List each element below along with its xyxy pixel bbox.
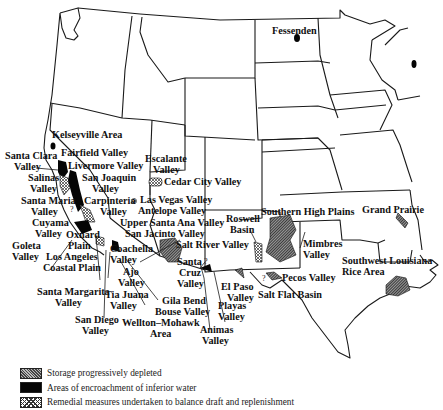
- label-tia-juana-1: Tia Juana: [105, 289, 149, 300]
- label-ajo-1: Ajo: [123, 266, 139, 277]
- label-santa-maria-2: Valley: [31, 206, 58, 217]
- area-carpinteria: [80, 205, 95, 222]
- label-santa-cruz-1: Santa: [177, 256, 202, 267]
- area-michigan: [412, 60, 417, 68]
- label-oxnard-1: Oxnard: [66, 229, 100, 240]
- label-animas-2: Valley: [202, 335, 229, 346]
- label-san-joaquin-1: San Joaquin: [82, 172, 136, 183]
- label-upper-santa-ana: Upper Santa Ana Valley: [120, 217, 224, 228]
- label-goleta-1: Goleta: [12, 240, 41, 251]
- label-santa-maria-1: Santa Maria: [21, 195, 76, 206]
- label-cuyama-1: Cuyama: [32, 217, 69, 228]
- legend-label: Remedial measures undertaken to balance …: [47, 397, 294, 407]
- label-roswell-1: Roswell: [226, 213, 260, 224]
- northern-border: [78, 8, 395, 40]
- area-roswell: [254, 242, 262, 262]
- label-wellton-2: Area: [150, 328, 171, 339]
- area-pecos: [266, 272, 282, 280]
- label-bouse: Bouse Valley: [155, 306, 210, 317]
- label-wellton-1: Wellton–Mohawk: [122, 317, 200, 328]
- label-santa-cruz-3: Valley: [177, 278, 204, 289]
- label-escalante-1: Escalante: [145, 153, 187, 164]
- label-san-diego-2: Valley: [82, 325, 109, 336]
- legend-item-encroachment: Areas of encroachment of inferior water: [20, 381, 294, 396]
- groundwater-map: Fessenden Kelseyville Area Fairfield Val…: [0, 0, 443, 410]
- label-playas-2: Valley: [218, 311, 245, 322]
- area-kelseyville: [51, 143, 56, 150]
- legend-item-depleted: Storage progressively depleted: [20, 366, 294, 381]
- legend-item-remedial: Remedial measures undertaken to balance …: [20, 395, 294, 410]
- label-roswell-2: Basin: [230, 224, 255, 235]
- label-grand-prairie: Grand Prairie: [362, 204, 424, 215]
- label-mimbres-1: Mimbres: [303, 238, 342, 249]
- label-coachella-1: Coachella: [110, 243, 153, 254]
- label-cuyama-2: Valley: [35, 228, 62, 239]
- label-goleta-2: Valley: [12, 251, 39, 262]
- label-san-diego-1: San Diego: [75, 314, 119, 325]
- area-grand-prairie: [396, 213, 408, 228]
- label-el-paso-1: El Paso: [221, 281, 254, 292]
- label-fairfield: Fairfield Valley: [61, 147, 128, 158]
- label-fessenden: Fessenden: [272, 25, 317, 36]
- label-playas-1: Playas: [218, 300, 246, 311]
- label-san-jacinto: San Jacinto Valley: [125, 228, 205, 239]
- encroachment-swatch-icon: [20, 382, 42, 393]
- label-los-angeles-1: Los Angeles: [46, 251, 98, 262]
- label-sw-louisiana-1: Southwest Louisiana: [342, 255, 432, 266]
- question-mark-pecos: ?: [262, 274, 266, 283]
- label-los-angeles-2: Coastal Plain: [43, 262, 101, 273]
- label-antelope: Antelope Valley: [138, 205, 206, 216]
- label-southern-high-plains: Southern High Plains: [261, 206, 354, 217]
- label-pecos: Pecos Valley: [282, 272, 335, 283]
- label-animas-1: Animas: [200, 324, 233, 335]
- question-mark-santa-maria: ?: [70, 205, 74, 214]
- label-livermore: Livermore Valley: [68, 160, 143, 171]
- label-kelseyville: Kelseyville Area: [52, 129, 122, 140]
- label-santa-cruz-2: Cruz: [179, 267, 202, 278]
- label-salinas-2: Valley: [30, 183, 57, 194]
- depleted-swatch-icon: [20, 368, 42, 379]
- remedial-swatch-icon: [20, 397, 42, 408]
- label-las-vegas: Las Vegas Valley: [140, 194, 212, 205]
- label-santa-margarita-1: Santa Margarita: [37, 286, 110, 297]
- label-san-joaquin-2: Valley: [92, 183, 119, 194]
- label-santa-clara-2: Valley: [14, 161, 41, 172]
- label-carpinteria-2: Valley: [100, 206, 127, 217]
- label-cedar-city: Cedar City Valley: [164, 176, 241, 187]
- label-ajo-2: Valley: [118, 277, 145, 288]
- label-santa-margarita-2: Valley: [55, 297, 82, 308]
- question-mark-santa-cruz: ?: [204, 257, 208, 266]
- label-sw-louisiana-2: Rice Area: [342, 266, 385, 277]
- area-southern-high-plains: [266, 215, 296, 262]
- area-cedar-city: [149, 178, 162, 186]
- label-tia-juana-2: Valley: [110, 300, 137, 311]
- label-carpinteria-1: Carpinteria: [84, 195, 136, 206]
- label-oxnard-2: Plain: [68, 240, 91, 251]
- label-salinas-1: Salinas: [28, 172, 59, 183]
- label-salt-river: Salt River Valley: [176, 239, 249, 250]
- texas-outline: [250, 272, 405, 358]
- legend: Storage progressively depleted Areas of …: [20, 366, 294, 410]
- legend-label: Storage progressively depleted: [47, 368, 162, 378]
- label-coachella-2: Valley: [110, 254, 137, 265]
- label-escalante-2: Valley: [153, 164, 180, 175]
- area-sw-louisiana: [386, 276, 410, 296]
- legend-label: Areas of encroachment of inferior water: [47, 383, 196, 393]
- label-salt-flat: Salt Flat Basin: [258, 289, 322, 300]
- label-mimbres-2: Valley: [303, 249, 330, 260]
- label-gila-bend: Gila Bend: [162, 295, 206, 306]
- label-santa-clara-1: Santa Clara: [5, 150, 57, 161]
